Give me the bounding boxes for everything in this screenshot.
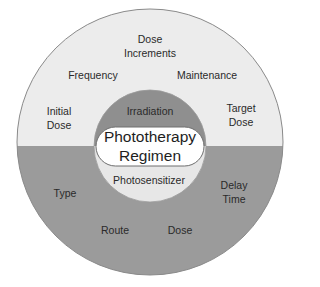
inner-label-irradiation: Irradiation <box>127 104 174 118</box>
outer-label-maintenance: Maintenance <box>177 68 237 82</box>
outer-label-route: Route <box>101 223 129 237</box>
inner-label-photosensitizer: Photosensitizer <box>113 173 185 187</box>
outer-label-type: Type <box>54 186 77 200</box>
center-label-phototherapy-regimen: Phototherapy Regimen <box>104 127 196 165</box>
outer-label-delay-time: Delay Time <box>221 178 248 206</box>
outer-label-initial-dose: Initial Dose <box>47 104 72 132</box>
outer-label-dose-increments: Dose Increments <box>124 32 176 60</box>
outer-label-dose: Dose <box>168 223 193 237</box>
outer-label-target-dose: Target Dose <box>226 101 255 129</box>
outer-label-frequency: Frequency <box>68 68 118 82</box>
